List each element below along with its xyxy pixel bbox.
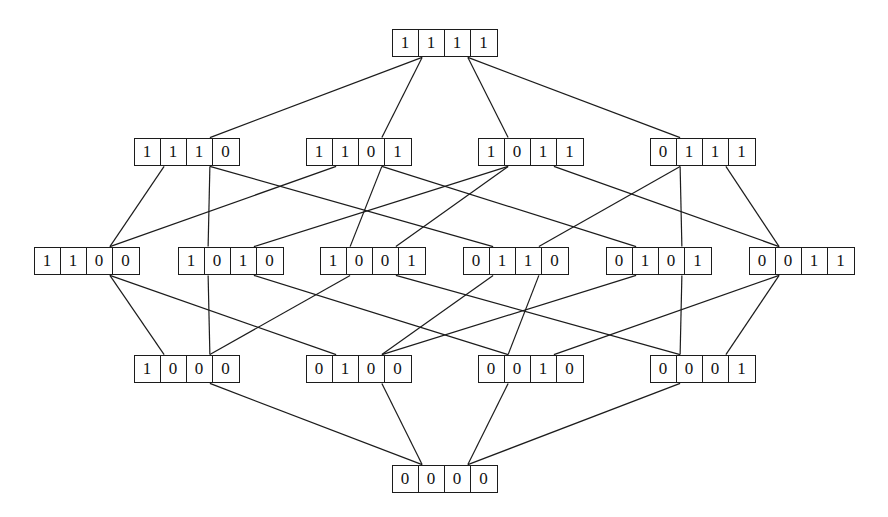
bit-cell: 1 — [135, 356, 161, 382]
edge — [680, 166, 682, 246]
bit-cell: 1 — [187, 139, 213, 165]
bit-cell: 1 — [703, 139, 729, 165]
bit-cell: 1 — [385, 139, 411, 165]
edge — [208, 275, 210, 354]
bit-cell: 0 — [557, 356, 583, 382]
lattice-node-1100[interactable]: 1100 — [34, 247, 140, 275]
edge — [726, 275, 779, 354]
lattice-node-1110[interactable]: 1110 — [134, 138, 240, 166]
bit-cell: 0 — [505, 139, 531, 165]
edge — [554, 166, 779, 246]
edge — [110, 166, 336, 246]
edge — [539, 166, 680, 246]
edge — [726, 166, 779, 246]
bit-cell: 0 — [419, 466, 445, 492]
bit-cell: 0 — [385, 356, 411, 382]
lattice-node-0011[interactable]: 0011 — [749, 247, 855, 275]
edge — [210, 383, 422, 464]
bit-cell: 0 — [445, 466, 471, 492]
edge — [382, 383, 422, 464]
bit-cell: 1 — [393, 30, 419, 56]
bit-cell: 1 — [802, 248, 828, 274]
bit-cell: 0 — [213, 356, 239, 382]
bit-cell: 0 — [607, 248, 633, 274]
lattice-node-0001[interactable]: 0001 — [650, 355, 756, 383]
bit-cell: 0 — [307, 356, 333, 382]
bit-cell: 1 — [531, 139, 557, 165]
bit-cell: 1 — [685, 248, 711, 274]
bit-cell: 1 — [557, 139, 583, 165]
edge — [350, 166, 382, 246]
edge — [110, 275, 336, 354]
edge — [254, 166, 508, 246]
edge — [680, 275, 682, 354]
bit-cell: 0 — [479, 356, 505, 382]
lattice-node-0110[interactable]: 0110 — [463, 247, 569, 275]
edge — [468, 57, 508, 137]
bit-cell: 0 — [677, 356, 703, 382]
bit-cell: 0 — [659, 248, 685, 274]
bit-cell: 0 — [464, 248, 490, 274]
lattice-node-1011[interactable]: 1011 — [478, 138, 584, 166]
bit-cell: 0 — [359, 356, 385, 382]
lattice-node-0010[interactable]: 0010 — [478, 355, 584, 383]
edge — [110, 275, 164, 354]
bit-cell: 1 — [531, 356, 557, 382]
bit-cell: 1 — [161, 139, 187, 165]
bit-cell: 0 — [87, 248, 113, 274]
bit-cell: 0 — [347, 248, 373, 274]
edge — [554, 275, 779, 354]
bit-cell: 0 — [359, 139, 385, 165]
edge — [468, 383, 680, 464]
lattice-node-1101[interactable]: 1101 — [306, 138, 412, 166]
bit-cell: 1 — [321, 248, 347, 274]
bit-cell: 0 — [393, 466, 419, 492]
edge — [210, 275, 350, 354]
bit-cell: 0 — [750, 248, 776, 274]
bit-cell: 0 — [542, 248, 568, 274]
bit-cell: 1 — [307, 139, 333, 165]
edge — [110, 166, 164, 246]
edge — [382, 57, 422, 137]
lattice-node-1000[interactable]: 1000 — [134, 355, 240, 383]
bit-cell: 1 — [445, 30, 471, 56]
bit-cell: 1 — [333, 356, 359, 382]
bit-cell: 0 — [703, 356, 729, 382]
bit-cell: 1 — [516, 248, 542, 274]
bit-cell: 1 — [471, 30, 497, 56]
edge — [468, 383, 508, 464]
bit-cell: 1 — [135, 139, 161, 165]
edge — [382, 166, 636, 246]
edge — [382, 275, 636, 354]
edge — [508, 275, 539, 354]
bit-cell: 0 — [205, 248, 231, 274]
bit-cell: 0 — [471, 466, 497, 492]
bit-cell: 0 — [505, 356, 531, 382]
bit-cell: 1 — [677, 139, 703, 165]
edge — [210, 166, 493, 246]
bit-cell: 1 — [479, 139, 505, 165]
bit-cell: 1 — [490, 248, 516, 274]
bit-cell: 0 — [257, 248, 283, 274]
lattice-node-1010[interactable]: 1010 — [178, 247, 284, 275]
lattice-node-1111[interactable]: 1111 — [392, 29, 498, 57]
bit-cell: 1 — [419, 30, 445, 56]
edge — [210, 57, 422, 137]
lattice-node-0100[interactable]: 0100 — [306, 355, 412, 383]
bit-cell: 1 — [729, 139, 755, 165]
bit-cell: 1 — [333, 139, 359, 165]
lattice-node-1001[interactable]: 1001 — [320, 247, 426, 275]
bit-cell: 1 — [35, 248, 61, 274]
lattice-node-0101[interactable]: 0101 — [606, 247, 712, 275]
hasse-diagram: 1111111011011011011111001010100101100101… — [0, 0, 888, 517]
bit-cell: 1 — [399, 248, 425, 274]
bit-cell: 0 — [213, 139, 239, 165]
bit-cell: 0 — [113, 248, 139, 274]
bit-cell: 0 — [776, 248, 802, 274]
bit-cell: 1 — [633, 248, 659, 274]
edge — [468, 57, 680, 137]
bit-cell: 1 — [61, 248, 87, 274]
lattice-node-0111[interactable]: 0111 — [650, 138, 756, 166]
lattice-node-0000[interactable]: 0000 — [392, 465, 498, 493]
bit-cell: 1 — [729, 356, 755, 382]
